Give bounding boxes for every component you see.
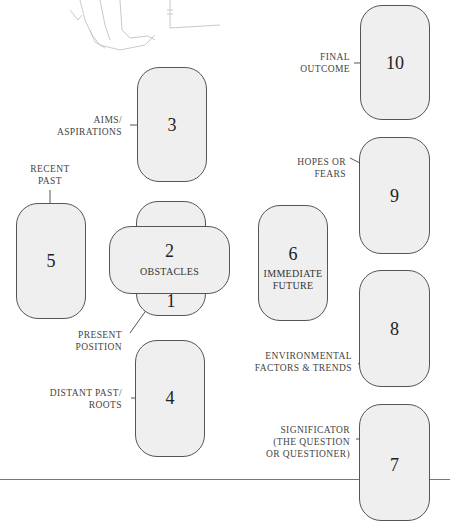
label-line: ASPIRATIONS [50,126,122,138]
label-line: RECENT [15,163,85,175]
label-line: FACTORS & TRENDS [245,362,352,374]
label-line: FINAL [292,51,350,63]
label-line: FEARS [280,168,346,180]
card-8: 8 [359,270,430,387]
label-line: SIGNIFICATOR [250,424,350,436]
card-number: 6 [259,244,327,265]
card-2: 2 OBSTACLES [109,226,230,294]
card-4: 4 [135,340,205,457]
label-line: PAST [15,175,85,187]
label-line: DISTANT PAST/ [30,387,122,399]
card-6-label: IMMEDIATE FUTURE [259,268,327,292]
label-final-outcome: FINAL OUTCOME [292,51,350,75]
label-significator: SIGNIFICATOR (THE QUESTION OR QUESTIONER… [250,424,350,460]
label-present-position: PRESENT POSITION [60,329,122,353]
card-9: 9 [359,137,430,254]
card-3: 3 [137,67,207,182]
card-number: 9 [360,186,429,207]
card-7: 7 [359,404,430,521]
label-line: OUTCOME [292,63,350,75]
card-2-label: OBSTACLES [110,266,229,277]
label-line: PRESENT [60,329,122,341]
card-number: 4 [136,388,204,409]
card-number: 5 [17,251,85,272]
label-environmental-factors: ENVIRONMENTAL FACTORS & TRENDS [245,350,352,374]
card-number: 3 [138,115,206,136]
label-line: HOPES OR [280,156,346,168]
card-number: 8 [360,319,429,340]
card-number: 10 [361,53,429,74]
label-line: POSITION [60,341,122,353]
label-recent-past: RECENT PAST [15,163,85,187]
label-line: OR QUESTIONER) [250,448,350,460]
label-distant-past-roots: DISTANT PAST/ ROOTS [30,387,122,411]
label-line: AIMS/ [50,114,122,126]
label-line: FUTURE [259,280,327,292]
label-hopes-or-fears: HOPES OR FEARS [280,156,346,180]
illustration-sketch [30,0,220,55]
label-line: ROOTS [30,399,122,411]
card-number: 1 [137,291,205,312]
card-10: 10 [360,5,430,120]
card-number: 7 [360,455,429,476]
card-number: 2 [110,241,229,262]
label-aims-aspirations: AIMS/ ASPIRATIONS [50,114,122,138]
label-line: IMMEDIATE [259,268,327,280]
label-line: ENVIRONMENTAL [245,350,352,362]
card-5: 5 [16,203,86,319]
label-line: (THE QUESTION [250,436,350,448]
card-6: 6 IMMEDIATE FUTURE [258,205,328,321]
